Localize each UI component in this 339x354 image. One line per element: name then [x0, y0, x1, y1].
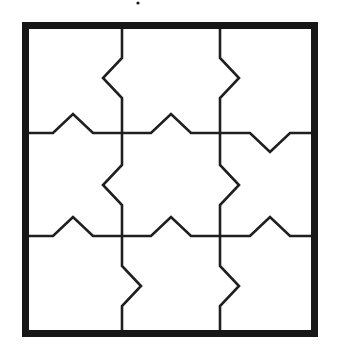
scan-artifact-layer	[136, 1, 139, 4]
scan-speck	[136, 1, 139, 4]
tessellation-figure	[0, 0, 339, 354]
figure-background	[0, 0, 339, 354]
tessellation-canvas	[0, 0, 339, 354]
